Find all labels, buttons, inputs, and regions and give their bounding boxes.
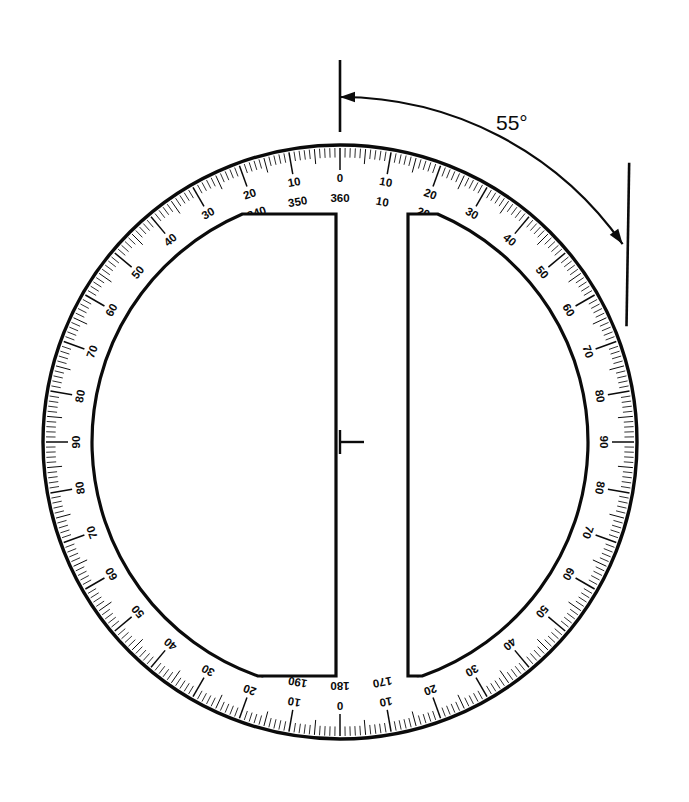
protractor-figure: 3601020304050607080901001101201301401501… — [0, 0, 689, 802]
inner-scale-number: 90 — [598, 436, 610, 449]
inner-scale-number: 80 — [593, 389, 607, 404]
outer-scale-number: 360 — [330, 192, 349, 204]
inner-scale-number: 80 — [73, 389, 87, 404]
inner-scale-number: 10 — [378, 695, 393, 709]
inner-scale-number: 0 — [337, 172, 343, 184]
inner-scale-number: 80 — [73, 480, 87, 495]
inner-scale-number: 0 — [337, 700, 343, 712]
inner-scale-number: 10 — [287, 695, 302, 709]
protractor-diagram: 3601020304050607080901001101201301401501… — [0, 0, 689, 802]
inner-scale-number: 80 — [593, 480, 607, 495]
outer-scale-number: 10 — [375, 195, 390, 209]
inner-scale-number: 10 — [378, 175, 393, 189]
angle-value-label: 55° — [496, 111, 528, 134]
outer-scale-number: 180 — [330, 680, 349, 692]
inner-scale-number: 10 — [287, 175, 302, 189]
inner-scale-number: 90 — [70, 436, 82, 449]
